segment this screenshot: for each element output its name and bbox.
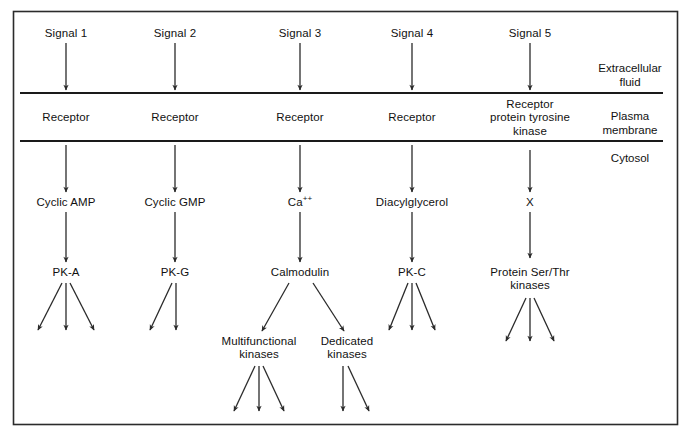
diagram-canvas	[0, 0, 690, 439]
signal-transduction-figure: Signal 1 Signal 2 Signal 3 Signal 4 Sign…	[0, 0, 690, 439]
arrow-dedicated-out-right	[348, 366, 369, 411]
arrow-serthr-out-left	[506, 298, 526, 341]
arrow-pka-out-right	[70, 283, 94, 330]
arrow-pkc-out-right	[416, 283, 435, 330]
arrow-calmodulin-to-multifunctional	[262, 283, 289, 331]
figure-border	[14, 12, 678, 425]
label-extracellular-fluid: Extracellular fluid	[598, 62, 661, 89]
arrow-pkg-out-left	[150, 283, 172, 330]
arrow-multifunctional-out-right	[263, 366, 284, 411]
arrow-serthr-out-right	[534, 298, 554, 341]
arrow-calmodulin-to-dedicated	[313, 283, 344, 331]
arrow-pka-out-left	[38, 283, 62, 330]
arrow-multifunctional-out-left	[234, 366, 255, 411]
label-cytosol: Cytosol	[611, 152, 649, 166]
arrow-pkc-out-left	[389, 283, 408, 330]
label-plasma-membrane: Plasma membrane	[603, 110, 658, 137]
